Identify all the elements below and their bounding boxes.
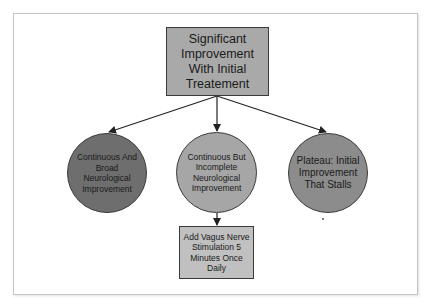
node-add-vagus-nerve-stimulation: Add Vagus Nerve Stimulation 5 Minutes On… xyxy=(179,226,254,279)
edge-root-to-left xyxy=(109,96,217,132)
node-significant-improvement: Significant Improvement With Initial Tre… xyxy=(166,27,269,96)
stray-dot xyxy=(322,218,324,220)
node-root-label: Significant Improvement With Initial Tre… xyxy=(171,32,264,92)
node-left-label: Continuous And Broad Neurological Improv… xyxy=(72,152,142,194)
node-plateau: Plateau: Initial Improvement That Stalls xyxy=(288,133,368,213)
node-bottom-label: Add Vagus Nerve Stimulation 5 Minutes On… xyxy=(183,232,250,274)
node-continuous-broad-improvement: Continuous And Broad Neurological Improv… xyxy=(67,133,147,213)
edge-root-to-right xyxy=(217,96,326,132)
node-right-label: Plateau: Initial Improvement That Stalls xyxy=(293,155,363,191)
node-continuous-incomplete-improvement: Continuous But Incomplete Neurological I… xyxy=(176,132,257,213)
node-mid-label: Continuous But Incomplete Neurological I… xyxy=(183,152,250,194)
